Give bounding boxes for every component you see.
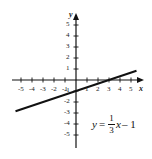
x-tick-label-4: 4 [118,86,122,93]
x-tick-label--5: -5 [18,86,24,93]
y-tick-label--3: -3 [64,109,70,116]
x-tick-label-5: 5 [129,86,133,93]
y-tick-label--5: -5 [64,131,70,138]
x-tick-label--2: -2 [51,86,57,93]
x-tick-label-3: 3 [107,86,111,93]
x-tick-label-1: 1 [85,86,89,93]
fraction-denominator: 3 [108,126,115,135]
y-tick-label-1: 1 [66,65,70,72]
equation-variable: x [116,119,121,130]
x-tick-label--4: -4 [29,86,35,93]
equation-annotation: y = 1 3 x – 1 [92,114,136,135]
equation-lhs: y [92,119,97,130]
fraction-numerator: 1 [108,114,115,123]
x-axis-label: x [139,85,143,93]
equation-equals-sign: = [99,119,105,130]
coordinate-plane-svg [0,0,152,159]
y-tick-label--2: -2 [64,98,70,105]
y-tick-label--4: -4 [64,120,70,127]
x-tick-label-2: 2 [96,86,100,93]
x-tick-label--3: -3 [40,86,46,93]
equation-fraction: 1 3 [108,114,115,135]
equation-constant-term: – 1 [122,119,136,130]
y-tick-label-5: 5 [66,21,70,28]
x-axis-arrow [137,77,144,83]
y-tick-label-4: 4 [66,32,70,39]
y-axis-arrow [73,13,79,20]
graph-figure: -5 -4 -3 -2 -1 1 2 3 4 5 5 4 3 2 1 -1 -2… [0,0,152,159]
y-tick-label-3: 3 [66,43,70,50]
y-axis-label: y [69,11,73,19]
y-tick-label--1: -1 [64,87,70,94]
y-tick-label-2: 2 [66,54,70,61]
